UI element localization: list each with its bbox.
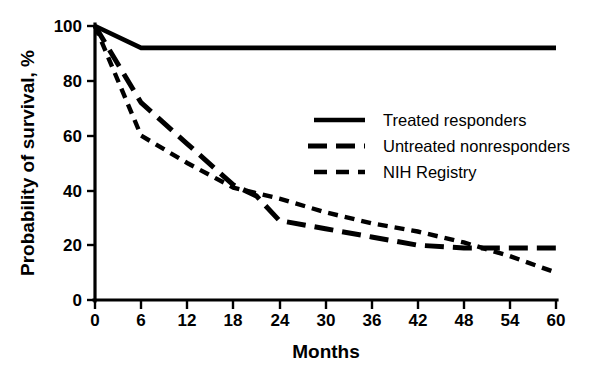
x-tick-label-30: 30: [317, 311, 336, 330]
legend-label-treated-responders: Treated responders: [383, 111, 526, 129]
y-tick-label-40: 40: [63, 182, 82, 201]
x-tick-label-60: 60: [547, 311, 566, 330]
chart-canvas: 100 80 60 40 20 0 0 6 12 18 24 30 36 42 …: [0, 0, 590, 372]
x-axis-title: Months: [292, 341, 360, 362]
x-tick-label-54: 54: [501, 311, 520, 330]
y-tick-label-100: 100: [54, 17, 82, 36]
legend-label-nih-registry: NIH Registry: [383, 163, 477, 181]
x-tick-label-36: 36: [363, 311, 382, 330]
x-tick-label-18: 18: [224, 311, 243, 330]
x-tick-label-12: 12: [178, 311, 197, 330]
x-tick-label-42: 42: [409, 311, 428, 330]
survival-curve-figure: 100 80 60 40 20 0 0 6 12 18 24 30 36 42 …: [0, 0, 590, 372]
y-tick-label-20: 20: [63, 236, 82, 255]
legend: Treated responders Untreated nonresponde…: [308, 111, 570, 181]
y-tick-label-60: 60: [63, 127, 82, 146]
x-tick-label-6: 6: [136, 311, 145, 330]
series-line-treated-responders: [95, 26, 556, 48]
legend-label-untreated-nonresponders: Untreated nonresponders: [383, 137, 570, 155]
y-axis-title: Probability of survival, %: [17, 50, 38, 276]
x-tick-label-48: 48: [455, 311, 474, 330]
y-tick-label-80: 80: [63, 72, 82, 91]
x-tick-label-0: 0: [90, 311, 99, 330]
y-tick-label-0: 0: [73, 291, 82, 310]
x-tick-label-24: 24: [271, 311, 290, 330]
